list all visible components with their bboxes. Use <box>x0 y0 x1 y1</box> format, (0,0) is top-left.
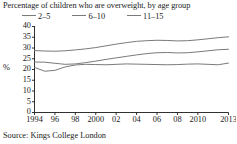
x-tick-label: 06 <box>146 116 168 124</box>
data-series <box>35 37 229 71</box>
x-tick-label: 1994 <box>24 116 46 124</box>
y-tick-label: 30 <box>15 44 31 52</box>
series-line-11-15 <box>35 37 229 51</box>
series-line-6-10 <box>35 49 229 64</box>
y-tick-label: 20 <box>15 65 31 73</box>
x-tick-label: 2000 <box>85 116 107 124</box>
x-tick-label: 02 <box>105 116 127 124</box>
y-tick-label: 15 <box>15 76 31 84</box>
x-tick-label: 2010 <box>187 116 209 124</box>
y-tick-label: 40 <box>15 22 31 30</box>
x-tick-label: 08 <box>166 116 188 124</box>
y-tick-label: 35 <box>15 33 31 41</box>
y-tick-label: 10 <box>15 87 31 95</box>
y-tick-label: 5 <box>15 98 31 106</box>
x-tick-label: 96 <box>44 116 66 124</box>
chart-figure: Percentage of children who are overweigh… <box>0 0 236 144</box>
source-note: Source: Kings College London <box>3 131 106 140</box>
x-tick-label: 2013 <box>218 116 237 124</box>
x-tick-label: 04 <box>126 116 148 124</box>
y-tick-label: 25 <box>15 55 31 63</box>
x-tick-label: 98 <box>64 116 86 124</box>
